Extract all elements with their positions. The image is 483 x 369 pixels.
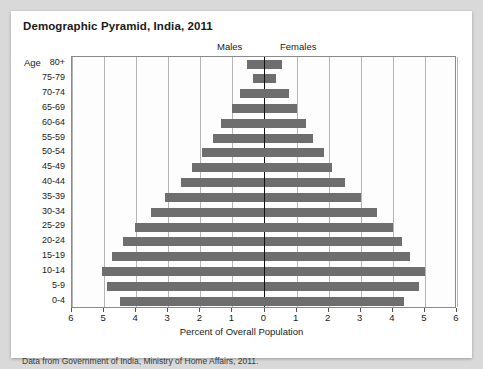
bar-male xyxy=(232,104,264,113)
age-tick-label: 75-79 xyxy=(19,72,65,82)
x-tick-label: 5 xyxy=(414,312,434,323)
bar-male xyxy=(107,282,264,291)
bar-male xyxy=(221,119,264,128)
x-tick-label: 0 xyxy=(254,312,274,323)
x-tick-label: 4 xyxy=(125,312,145,323)
x-axis-title: Percent of Overall Population xyxy=(11,326,472,337)
bar-female xyxy=(265,282,419,291)
pyramid-row xyxy=(72,250,455,265)
age-tick-label: 50-54 xyxy=(19,146,65,156)
bar-female xyxy=(265,119,307,128)
legend-females: Females xyxy=(280,41,316,52)
bar-male xyxy=(213,134,264,143)
pyramid-row xyxy=(72,161,455,176)
age-tick-label: 65-69 xyxy=(19,102,65,112)
chart-figure: Demographic Pyramid, India, 2011 Age Mal… xyxy=(11,11,472,358)
x-tick-label: 3 xyxy=(350,312,370,323)
page-title: Demographic Pyramid, India, 2011 xyxy=(23,20,213,32)
bar-female xyxy=(265,60,283,69)
pyramid-row xyxy=(72,146,455,161)
bar-female xyxy=(265,297,405,306)
bar-female xyxy=(265,104,297,113)
x-tick-label: 5 xyxy=(93,312,113,323)
pyramid-row xyxy=(72,116,455,131)
x-tick-label: 4 xyxy=(382,312,402,323)
x-tick-label: 1 xyxy=(286,312,306,323)
bar-female xyxy=(265,178,345,187)
chart-caption: Data from Government of India, Ministry … xyxy=(22,356,258,366)
bar-male xyxy=(253,74,264,83)
pyramid-row xyxy=(72,190,455,205)
bar-female xyxy=(265,193,361,202)
pyramid-row xyxy=(72,101,455,116)
pyramid-row xyxy=(72,235,455,250)
plot-area xyxy=(71,56,456,308)
age-tick-label: 25-29 xyxy=(19,220,65,230)
pyramid-row xyxy=(72,265,455,280)
bar-male xyxy=(247,60,265,69)
age-tick-label: 80+ xyxy=(19,57,65,67)
bar-male xyxy=(135,223,265,232)
bar-male xyxy=(165,193,264,202)
x-tick-label: 2 xyxy=(189,312,209,323)
gridline xyxy=(457,57,458,307)
age-tick-label: 0-4 xyxy=(19,295,65,305)
bar-male xyxy=(240,89,264,98)
age-tick-label: 5-9 xyxy=(19,280,65,290)
bar-female xyxy=(265,163,332,172)
x-tick-label: 1 xyxy=(221,312,241,323)
pyramid-row xyxy=(72,176,455,191)
bar-female xyxy=(265,267,425,276)
age-tick-label: 15-19 xyxy=(19,250,65,260)
bar-female xyxy=(265,74,276,83)
bar-female xyxy=(265,134,313,143)
pyramid-row xyxy=(72,294,455,309)
pyramid-row xyxy=(72,205,455,220)
pyramid-row xyxy=(72,131,455,146)
pyramid-row xyxy=(72,72,455,87)
age-tick-label: 35-39 xyxy=(19,191,65,201)
pyramid-row xyxy=(72,87,455,102)
pyramid-row xyxy=(72,220,455,235)
age-tick-label: 30-34 xyxy=(19,206,65,216)
bar-female xyxy=(265,252,411,261)
bar-male xyxy=(151,208,265,217)
age-tick-label: 60-64 xyxy=(19,117,65,127)
x-tick-label: 2 xyxy=(318,312,338,323)
bar-female xyxy=(265,208,377,217)
bar-male xyxy=(112,252,264,261)
legend-males: Males xyxy=(217,41,242,52)
pyramid-row xyxy=(72,279,455,294)
bar-male xyxy=(120,297,264,306)
bar-male xyxy=(181,178,264,187)
age-tick-label: 55-59 xyxy=(19,132,65,142)
age-tick-label: 45-49 xyxy=(19,161,65,171)
bar-female xyxy=(265,237,403,246)
bar-male xyxy=(202,148,265,157)
x-tick-label: 6 xyxy=(61,312,81,323)
x-tick-label: 3 xyxy=(157,312,177,323)
bar-female xyxy=(265,148,324,157)
age-tick-label: 10-14 xyxy=(19,265,65,275)
age-tick-label: 20-24 xyxy=(19,235,65,245)
bar-male xyxy=(102,267,264,276)
x-tick-label: 6 xyxy=(446,312,466,323)
age-tick-label: 40-44 xyxy=(19,176,65,186)
bar-male xyxy=(192,163,264,172)
bar-female xyxy=(265,223,393,232)
pyramid-row xyxy=(72,57,455,72)
age-tick-label: 70-74 xyxy=(19,87,65,97)
bar-male xyxy=(123,237,264,246)
bar-female xyxy=(265,89,289,98)
